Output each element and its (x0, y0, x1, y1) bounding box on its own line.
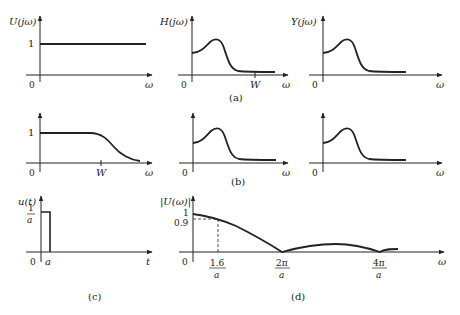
xlabel: ω (282, 79, 290, 90)
level-1: 1 (183, 208, 189, 218)
panel-label-b: (b) (231, 176, 245, 187)
origin: 0 (29, 80, 35, 90)
panel-d-magnitude: |U(ω)| 1 0.9 0 1.6 a 2π a 4π a ω (d) (160, 196, 446, 302)
height-den: a (27, 215, 32, 225)
xlabel: ω (145, 167, 153, 178)
panel-c-pulse: u(t) 1 a 0 a t (c) (18, 196, 152, 302)
origin: 0 (312, 80, 318, 90)
xlabel: ω (282, 167, 290, 178)
w-label: W (96, 167, 107, 178)
tick-2pi-num: 2π (276, 258, 288, 268)
tick-4pi-den: a (376, 270, 381, 280)
panel-a-filter: H(jω) 0 W ω (a) (159, 16, 290, 103)
level-0.9: 0.9 (174, 218, 189, 228)
tick-4pi-num: 4π (373, 258, 385, 268)
tick-1.6-num: 1.6 (210, 258, 225, 268)
panel-label-a: (a) (229, 92, 243, 103)
filter-curve (192, 39, 275, 72)
tick-1.6-den: a (214, 270, 219, 280)
pulse (41, 212, 50, 252)
origin: 0 (30, 257, 36, 267)
output-curve (323, 39, 406, 72)
level-1: 1 (28, 38, 34, 49)
origin: 0 (29, 168, 35, 178)
panel-a-output: Y(jω) 0 ω (291, 16, 444, 90)
magnitude-curve (193, 214, 398, 252)
ylabel: H(jω) (159, 16, 188, 27)
xlabel: ω (145, 79, 153, 90)
panel-b-input: 1 0 W ω (26, 113, 153, 178)
ylabel: Y(jω) (291, 16, 317, 27)
panel-label-c: (c) (88, 291, 102, 302)
tick-2pi-den: a (279, 270, 284, 280)
w-label: W (250, 79, 261, 90)
width-label: a (45, 256, 51, 267)
level-1: 1 (28, 127, 34, 138)
panel-a-input: U(jω) 1 0 ω (9, 16, 153, 90)
xlabel: ω (436, 79, 444, 90)
ylabel: U(jω) (9, 16, 37, 27)
height-num: 1 (28, 203, 34, 213)
origin: 0 (182, 168, 188, 178)
origin: 0 (312, 168, 318, 178)
xlabel: ω (438, 256, 446, 267)
figure: U(jω) 1 0 ω H(jω) 0 W ω (a) Y(jω) 0 ω 1 … (0, 0, 460, 315)
input-curve (40, 133, 140, 161)
output-curve (323, 128, 406, 160)
xlabel: ω (436, 167, 444, 178)
origin: 0 (182, 257, 188, 267)
origin: 0 (181, 80, 187, 90)
xlabel: t (146, 256, 151, 267)
panel-label-d: (d) (291, 291, 305, 302)
panel-b-filter: 0 ω (b) (179, 113, 290, 187)
panel-b-output: 0 ω (309, 113, 444, 178)
filter-curve (193, 128, 276, 160)
ylabel: |U(ω)| (160, 196, 191, 208)
